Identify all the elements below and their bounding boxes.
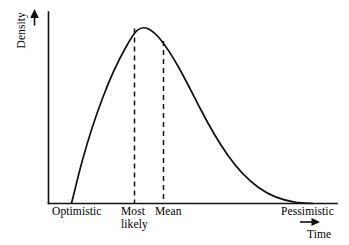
most-likely-line-2: likely [121, 218, 148, 231]
x-tick-label-mean: Mean [155, 205, 182, 218]
x-axis-label: Time [307, 228, 331, 241]
arrow-up-icon [30, 9, 39, 26]
x-tick-label-optimistic: Optimistic [52, 205, 102, 218]
arrow-right-icon [300, 218, 320, 226]
density-curve-path [72, 28, 313, 204]
x-tick-label-pessimistic: Pessimistic [281, 205, 334, 218]
most-likely-line-1: Most [121, 205, 145, 217]
x-tick-label-most-likely: Most likely [121, 205, 148, 230]
y-axis-label: Density [15, 0, 28, 60]
beta-distribution-figure: Density Optimistic Most likely Mean Pess… [0, 0, 349, 245]
